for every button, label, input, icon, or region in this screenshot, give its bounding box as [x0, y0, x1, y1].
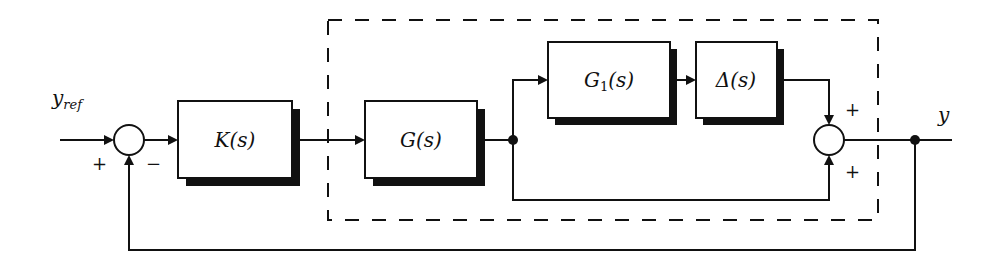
arrowhead: [104, 135, 114, 145]
weight-block: G1(s): [548, 42, 677, 125]
arrowhead: [168, 135, 178, 145]
controller-label: K(s): [214, 128, 256, 152]
weight-label: G1(s): [584, 68, 634, 94]
sum2-bottom-plus-sign: +: [845, 161, 860, 182]
arrowhead: [686, 75, 696, 85]
uncertainty-label: Δ(s): [715, 68, 756, 92]
block-diagram: yref + − K(s) G(s) G1(s) Δ(s): [0, 0, 997, 270]
arrowhead: [124, 155, 134, 165]
arrowhead: [824, 155, 834, 165]
plant-block: G(s): [365, 101, 485, 186]
output-label: y: [937, 103, 950, 127]
summing-junction-2: [814, 125, 844, 155]
arrowhead: [824, 115, 834, 125]
plant-label: G(s): [400, 128, 442, 152]
arrowhead: [355, 135, 365, 145]
line-branch-to-sum2: [513, 140, 829, 200]
sum2-top-plus-sign: +: [845, 99, 860, 120]
arrowhead: [538, 75, 548, 85]
line-branch-to-weight: [513, 80, 544, 140]
summing-junction-1: [114, 125, 144, 155]
input-label: yref: [51, 86, 84, 112]
sum1-minus-sign: −: [146, 153, 161, 174]
sum1-plus-sign: +: [92, 153, 107, 174]
controller-block: K(s): [178, 101, 300, 186]
uncertainty-block: Δ(s): [696, 42, 784, 125]
line-uncertainty-to-sum2: [784, 80, 829, 121]
